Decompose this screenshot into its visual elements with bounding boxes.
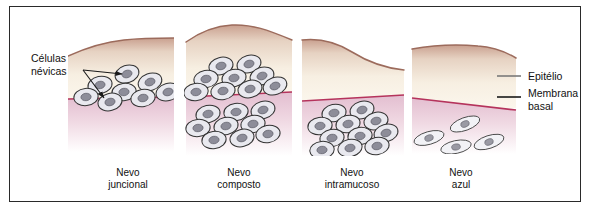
caption-compound-line2: composto — [217, 179, 260, 191]
label-nevus-cells-line2: névicas — [31, 65, 67, 78]
epithelium-layer-intramucosal — [302, 40, 404, 102]
figure-nevus-types: Células névicas Epitélio Membrana basal … — [0, 0, 590, 209]
caption-blue: Nevo azul — [449, 167, 472, 191]
caption-junctional-line1: Nevo — [108, 167, 147, 179]
label-nevus-cells: Células névicas — [31, 52, 67, 77]
label-basement-membrane: Membrana basal — [528, 87, 578, 112]
caption-junctional: Nevo juncional — [108, 167, 147, 191]
caption-blue-line2: azul — [449, 179, 472, 191]
caption-compound-line1: Nevo — [217, 167, 260, 179]
caption-blue-line1: Nevo — [449, 167, 472, 179]
caption-intramucosal: Nevo intramucoso — [325, 167, 379, 191]
label-basement-membrane-line1: Membrana — [528, 87, 578, 100]
illustration-canvas — [0, 0, 590, 209]
label-nevus-cells-line1: Células — [31, 52, 67, 65]
label-epithelium-text: Epitélio — [528, 70, 562, 83]
caption-compound: Nevo composto — [217, 167, 260, 191]
caption-junctional-line2: juncional — [108, 179, 147, 191]
label-epithelium: Epitélio — [528, 70, 562, 83]
caption-intramucosal-line2: intramucoso — [325, 179, 379, 191]
caption-intramucosal-line1: Nevo — [325, 167, 379, 179]
label-basement-membrane-line2: basal — [528, 100, 578, 113]
